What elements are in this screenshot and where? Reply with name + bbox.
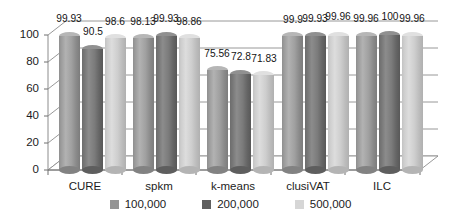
- bar-body: [282, 36, 303, 170]
- bar-clusivat-500000: [328, 32, 349, 174]
- y-axis-tick-100: 100: [13, 28, 39, 40]
- bar-body: [179, 38, 200, 170]
- x-axis-label-kmeans: k-means: [198, 180, 268, 192]
- bar-clusivat-200000: [305, 32, 326, 174]
- bar-foot: [305, 166, 326, 174]
- legend-item-200000[interactable]: 200,000: [202, 198, 259, 210]
- y-axis-tick-20: 20: [13, 136, 39, 148]
- value-label-kmeans-500000: 71.83: [247, 53, 281, 64]
- bar-kmeans-100000: [207, 66, 228, 174]
- bar-foot: [356, 166, 377, 174]
- value-label-cure-200000: 90.5: [76, 26, 110, 37]
- bar-kmeans-200000: [230, 70, 251, 174]
- legend-label-100000: 100,000: [125, 198, 167, 210]
- bar-body: [207, 70, 228, 170]
- x-axis-label-spkm: spkm: [124, 180, 194, 192]
- bar-foot: [328, 166, 349, 174]
- y-axis-tick-40: 40: [13, 109, 39, 121]
- bar-body: [133, 38, 154, 170]
- bar-foot: [105, 166, 126, 174]
- bar-spkm-100000: [133, 34, 154, 174]
- bar-foot: [402, 166, 423, 174]
- bar-spkm-200000: [156, 32, 177, 174]
- bar-body: [59, 36, 80, 170]
- bar-cure-200000: [82, 45, 103, 174]
- x-axis-label-cure: CURE: [50, 180, 120, 192]
- bar-spkm-500000: [179, 34, 200, 174]
- bar-foot: [379, 166, 400, 174]
- bar-body: [253, 75, 274, 170]
- bar-body: [379, 35, 400, 170]
- legend-item-100000[interactable]: 100,000: [110, 198, 167, 210]
- legend-swatch-icon-100000: [110, 200, 119, 209]
- bar-foot: [253, 166, 274, 174]
- bar-foot: [179, 166, 200, 174]
- legend-swatch-icon-500000: [295, 200, 304, 209]
- bar-ilc-500000: [402, 32, 423, 174]
- bar-foot: [156, 166, 177, 174]
- x-axis-label-clusivat: clusiVAT: [273, 180, 343, 192]
- bar-foot: [59, 166, 80, 174]
- bar-chart: 100 80 60 40 20 0: [0, 0, 461, 223]
- bar-body: [105, 38, 126, 170]
- chart-legend: 100,000 200,000 500,000: [0, 198, 461, 210]
- y-axis-tick-60: 60: [13, 82, 39, 94]
- bar-kmeans-500000: [253, 71, 274, 174]
- x-axis-label-ilc: ILC: [347, 180, 417, 192]
- bar-body: [328, 36, 349, 170]
- value-label-cure-100000: 99.93: [52, 13, 86, 24]
- bar-foot: [282, 166, 303, 174]
- legend-item-500000[interactable]: 500,000: [295, 198, 352, 210]
- bar-body: [156, 36, 177, 170]
- y-axis-tick-80: 80: [13, 55, 39, 67]
- bar-body: [402, 36, 423, 170]
- bar-body: [230, 74, 251, 170]
- bar-foot: [230, 166, 251, 174]
- y-axis-tick-0: 0: [13, 163, 39, 175]
- bar-cure-500000: [105, 34, 126, 174]
- bar-body: [82, 49, 103, 170]
- bar-ilc-200000: [379, 31, 400, 174]
- bar-clusivat-100000: [282, 32, 303, 174]
- bar-body: [305, 36, 326, 170]
- bar-cure-100000: [59, 32, 80, 174]
- value-label-ilc-500000: 99.96: [395, 13, 429, 24]
- bar-body: [356, 36, 377, 170]
- bar-ilc-100000: [356, 32, 377, 174]
- value-label-spkm-500000: 98.86: [172, 16, 206, 27]
- legend-label-200000: 200,000: [217, 198, 259, 210]
- bar-foot: [133, 166, 154, 174]
- legend-swatch-icon-200000: [202, 200, 211, 209]
- bar-foot: [207, 166, 228, 174]
- legend-label-500000: 500,000: [310, 198, 352, 210]
- bar-foot: [82, 166, 103, 174]
